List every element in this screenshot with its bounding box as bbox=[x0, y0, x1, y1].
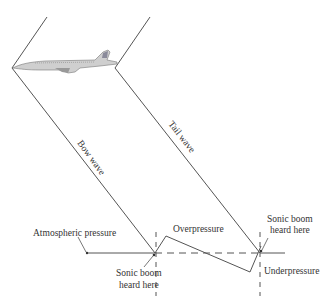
sonic-boom-2-label-line2: heard here bbox=[270, 225, 310, 235]
n-wave bbox=[155, 236, 261, 272]
underpressure-label: Underpressure bbox=[264, 266, 319, 276]
overpressure-label: Overpressure bbox=[173, 224, 224, 234]
bow-wave bbox=[12, 17, 155, 253]
atmospheric-pressure-pointer bbox=[78, 237, 88, 254]
sonic-boom-1-pointer bbox=[144, 254, 155, 267]
tail-wave-label: Tail wave bbox=[166, 119, 197, 154]
sonic-boom-1-label-line1: Sonic boom bbox=[116, 268, 162, 278]
atmospheric-pressure-label: Atmospheric pressure bbox=[33, 228, 116, 238]
supersonic-jet-icon bbox=[13, 50, 117, 73]
sonic-boom-2-pointer bbox=[260, 238, 268, 252]
sonic-boom-2-label-line1: Sonic boom bbox=[267, 214, 313, 224]
sonic-boom-diagram: Bow wave Tail wave Atmospheric pressure … bbox=[0, 0, 333, 301]
sonic-boom-1-label-line2: heard here bbox=[119, 280, 159, 290]
